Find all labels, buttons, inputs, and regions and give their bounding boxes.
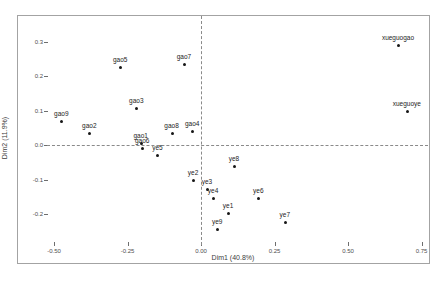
y-tick-label: 0.0 [20, 141, 43, 149]
point-marker [284, 221, 287, 224]
point-marker [183, 63, 186, 66]
y-tick-mark [44, 42, 48, 43]
point-label: ye7 [255, 211, 315, 219]
y-tick-label: -0.2 [20, 210, 43, 218]
point-label: gao5 [90, 56, 150, 64]
point-label: gao4 [162, 120, 222, 128]
point-label: xueguogao [368, 34, 428, 42]
point-marker [397, 44, 400, 47]
x-tick-label: -0.25 [116, 247, 140, 255]
point-label: ye9 [187, 218, 247, 226]
x-tick-label: 0.00 [189, 247, 213, 255]
x-tick-label: -0.50 [42, 247, 66, 255]
point-label: ye6 [228, 187, 288, 195]
point-label: gao2 [59, 122, 119, 130]
figure-border [17, 15, 430, 264]
y-tick-label: 0.2 [20, 72, 43, 80]
x-tick-mark [54, 242, 55, 246]
x-tick-label: 0.25 [263, 247, 287, 255]
point-label: ye5 [127, 144, 187, 152]
x-tick-mark [348, 242, 349, 246]
x-tick-label: 0.75 [410, 247, 434, 255]
y-tick-mark [44, 180, 48, 181]
y-tick-label: 0.3 [20, 38, 43, 46]
point-marker [212, 197, 215, 200]
zero-horizontal-dashed-line [47, 145, 428, 146]
y-tick-mark [44, 76, 48, 77]
x-tick-mark [275, 242, 276, 246]
point-marker [171, 132, 174, 135]
pca-scatter-figure: Dim2 (11.9%) Dim1 (40.8%) 0.30.20.10.0-0… [0, 0, 444, 281]
zero-vertical-dashed-line [201, 16, 202, 245]
point-label: gao3 [106, 97, 166, 105]
x-tick-mark [422, 242, 423, 246]
y-axis-label: Dim2 (11.9%) [0, 103, 10, 173]
point-marker [227, 212, 230, 215]
point-marker [191, 130, 194, 133]
point-label: ye1 [198, 202, 258, 210]
point-label: ye2 [163, 169, 223, 177]
y-tick-mark [44, 214, 48, 215]
x-tick-mark [128, 242, 129, 246]
y-tick-label: -0.1 [20, 176, 43, 184]
point-label: xueguoye [377, 100, 437, 108]
point-label: gao7 [154, 53, 214, 61]
point-marker [233, 165, 236, 168]
point-label: ye3 [177, 178, 237, 186]
point-label: ye8 [204, 155, 264, 163]
point-label: gao9 [31, 110, 91, 118]
x-tick-label: 0.50 [336, 247, 360, 255]
point-marker [406, 110, 409, 113]
